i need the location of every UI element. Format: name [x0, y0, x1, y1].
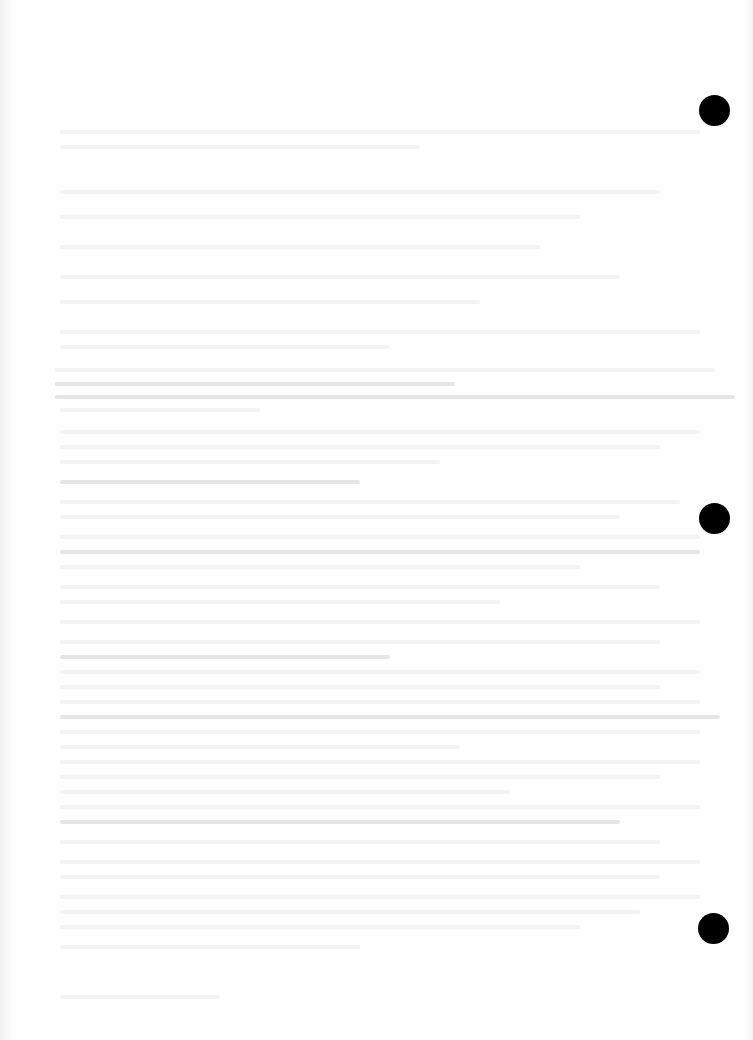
page-right-edge-shadow — [745, 0, 753, 1040]
faded-text-line — [60, 895, 700, 899]
faded-text-line — [60, 745, 460, 749]
faded-text-line — [60, 245, 540, 249]
faded-text-line — [60, 330, 700, 334]
faded-text-line — [60, 130, 700, 134]
faded-text-line — [60, 685, 660, 689]
faded-text-line — [60, 875, 660, 879]
hole-punch-2 — [699, 503, 730, 534]
scanned-document-page — [0, 0, 753, 1040]
faded-text-line — [60, 460, 440, 464]
faded-text-line — [60, 670, 700, 674]
faded-text-line — [60, 655, 390, 659]
faded-text-line — [55, 395, 735, 399]
faded-text-line — [55, 382, 455, 386]
faded-text-line — [60, 565, 580, 569]
hole-punch-3 — [698, 913, 729, 944]
faded-text-line — [60, 760, 700, 764]
faded-text-line — [60, 805, 700, 809]
faded-text-line — [60, 550, 700, 554]
faded-text-line — [60, 775, 660, 779]
faded-text-line — [60, 945, 360, 949]
hole-punch-1 — [699, 95, 730, 126]
faded-text-line — [60, 820, 620, 824]
faded-text-line — [60, 190, 660, 194]
faded-text-line — [60, 620, 700, 624]
faded-text-line — [60, 730, 700, 734]
faded-text-line — [60, 345, 390, 349]
faded-text-line — [60, 535, 700, 539]
faded-text-line — [60, 600, 500, 604]
faded-text-line — [60, 640, 660, 644]
faded-text-line — [60, 145, 420, 149]
faded-text-line — [60, 585, 660, 589]
faded-text-line — [60, 860, 700, 864]
faded-text-line — [55, 368, 715, 372]
faded-text-line — [60, 215, 580, 219]
faded-text-line — [60, 910, 640, 914]
page-left-edge-shadow — [0, 0, 14, 1040]
faded-text-line — [60, 408, 260, 412]
faded-text-line — [60, 925, 580, 929]
faded-text-line — [60, 480, 360, 484]
faded-text-line — [60, 515, 620, 519]
faded-text-line — [60, 445, 660, 449]
faded-text-line — [60, 500, 680, 504]
faded-text-line — [60, 840, 660, 844]
faded-text-line — [60, 430, 700, 434]
faded-text-line — [60, 300, 480, 304]
faded-text-line — [60, 700, 700, 704]
faded-text-line — [60, 715, 720, 719]
faded-text-line — [60, 790, 510, 794]
faded-text-line — [60, 275, 620, 279]
faded-text-line — [60, 995, 220, 999]
